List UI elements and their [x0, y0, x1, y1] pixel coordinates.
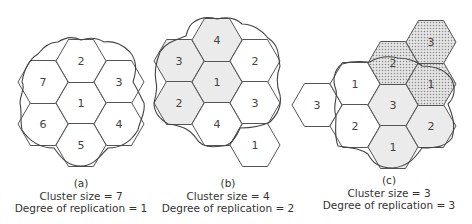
hex-cell-label: 3: [176, 55, 183, 68]
caption-c: (c) Cluster size = 3 Degree of replicati…: [304, 174, 472, 212]
hex-cell-label: 1: [214, 76, 221, 89]
hex-cell-label: 1: [78, 97, 85, 110]
hex-cell-label: 4: [214, 118, 221, 131]
hex-cell-label: 2: [176, 97, 183, 110]
hex-cell-label: 1: [428, 78, 435, 91]
hex-cell-label: 3: [314, 99, 321, 112]
hex-cell-label: 2: [352, 120, 359, 133]
hex-cell-label: 2: [78, 55, 85, 68]
hex-cell-label: 3: [116, 76, 123, 89]
hex-cell-label: 3: [252, 97, 259, 110]
caption-a-replication: Degree of replication = 1: [1, 202, 161, 215]
hex-cell-label: 1: [352, 78, 359, 91]
caption-b-cluster-size: Cluster size = 4: [148, 190, 308, 203]
hex-cell-label: 3: [428, 36, 435, 49]
hex-cell-label: 2: [252, 55, 259, 68]
hex-cells-layer: 123456714322341312312213: [18, 19, 456, 169]
hex-cell-label: 2: [390, 57, 397, 70]
hex-cell-label: 3: [390, 99, 397, 112]
hex-cell-label: 1: [252, 139, 259, 152]
hex-cell-label: 4: [214, 34, 221, 47]
caption-c-replication: Degree of replication = 3: [304, 199, 472, 212]
caption-a-label: (a): [1, 177, 161, 190]
caption-b-label: (b): [148, 177, 308, 190]
hex-cell-label: 6: [40, 118, 47, 131]
hex-cell-label: 5: [78, 139, 85, 152]
caption-c-cluster-size: Cluster size = 3: [304, 187, 472, 200]
hex-cell-label: 2: [428, 120, 435, 133]
caption-b: (b) Cluster size = 4 Degree of replicati…: [148, 177, 308, 215]
diagram-a: 1234567: [18, 40, 144, 167]
hex-cell-label: 7: [40, 76, 47, 89]
hex-cell-label: 4: [116, 118, 123, 131]
caption-c-label: (c): [304, 174, 472, 187]
diagram-c: 312312213: [292, 21, 456, 169]
caption-a: (a) Cluster size = 7 Degree of replicati…: [1, 177, 161, 215]
hex-cell-label: 1: [390, 141, 397, 154]
caption-b-replication: Degree of replication = 2: [148, 202, 308, 215]
caption-a-cluster-size: Cluster size = 7: [1, 190, 161, 203]
